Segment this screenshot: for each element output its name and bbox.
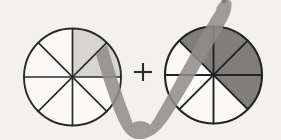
check-mark-vertex [127,121,153,139]
plus-sign [134,63,152,81]
fraction-diagram-canvas: Fraction addition diagram: two eighths p… [0,0,281,140]
diagram-svg [0,0,281,140]
